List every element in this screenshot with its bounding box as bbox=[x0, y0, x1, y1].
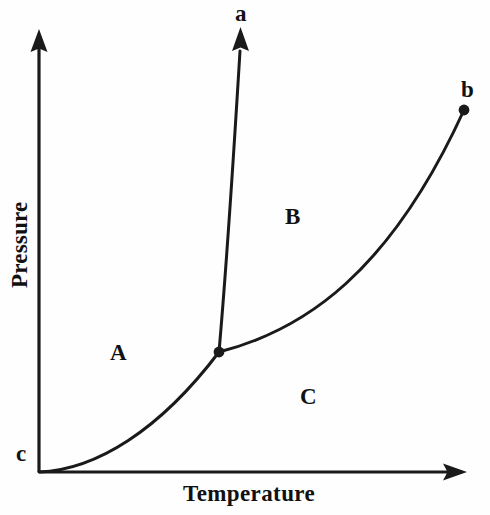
point-label-a: a bbox=[235, 1, 247, 27]
fusion-curve bbox=[219, 51, 240, 352]
triple-point-marker bbox=[214, 347, 225, 358]
vaporization-curve bbox=[219, 110, 464, 352]
y-axis-title: Pressure bbox=[7, 202, 33, 288]
fusion-curve-arrowhead-icon bbox=[232, 27, 249, 51]
sublimation-curve bbox=[39, 352, 219, 472]
critical-point-marker bbox=[459, 105, 470, 116]
point-label-b: b bbox=[461, 77, 474, 103]
region-label-b: B bbox=[285, 204, 300, 230]
x-axis-title: Temperature bbox=[183, 481, 315, 507]
phase-diagram-figure: Pressure Temperature A B C a b c bbox=[0, 0, 490, 515]
region-label-a: A bbox=[110, 340, 127, 366]
point-label-c: c bbox=[16, 441, 26, 467]
region-label-c: C bbox=[300, 384, 317, 410]
phase-diagram-canvas bbox=[0, 0, 490, 515]
